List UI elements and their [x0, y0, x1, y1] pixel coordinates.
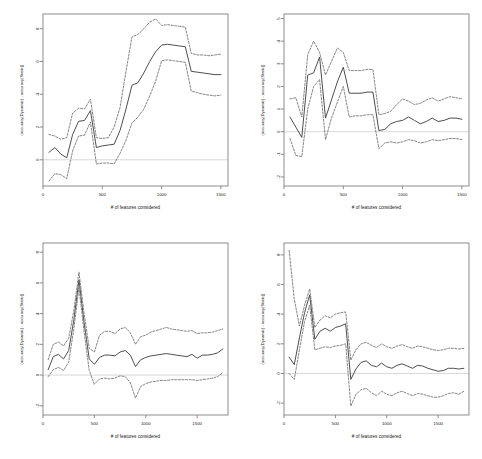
y-axis-title: (accuracy(Dynamic) - accuracy(Static)) — [260, 293, 265, 364]
y-tick-label: 5 — [276, 17, 281, 20]
series-line-mean — [48, 280, 223, 370]
x-tick-label: 1000 — [141, 421, 151, 426]
x-tick-label: 500 — [99, 192, 107, 197]
plot-box — [284, 14, 469, 186]
x-tick-label: 1000 — [157, 192, 167, 197]
y-tick-label: 6 — [276, 283, 281, 286]
y-tick-label: 2 — [35, 343, 40, 346]
y-tick-label: 0 — [35, 158, 40, 161]
y-tick-label: 4 — [35, 312, 40, 315]
series-line-lower — [289, 305, 464, 406]
series-line-upper — [290, 41, 462, 117]
x-tick-label: 1500 — [457, 192, 467, 197]
y-tick-label: 2 — [35, 125, 40, 128]
x-axis-title: # of features considered — [111, 434, 161, 439]
chart-svg-bottom-left: 050010001500-202468# of features conside… — [0, 229, 241, 458]
x-tick-label: 500 — [340, 192, 348, 197]
x-tick-label: 1500 — [192, 421, 202, 426]
y-tick-label: 0 — [276, 372, 281, 375]
chart-svg-top-left: 05001000150002468# of features considere… — [0, 0, 241, 229]
y-tick-label: 4 — [276, 39, 281, 42]
plot-panel-bottom-right: 050010001500-202468# of features conside… — [241, 229, 482, 458]
y-tick-label: 4 — [276, 312, 281, 315]
plot-panel-top-left: 05001000150002468# of features considere… — [0, 0, 241, 229]
x-axis-title: # of features considered — [352, 434, 402, 439]
x-tick-label: 1000 — [382, 421, 392, 426]
y-tick-label: 6 — [35, 281, 40, 284]
y-axis-title: (accuracy(Dynamic) - accuracy(Static)) — [19, 64, 24, 135]
x-axis-title: # of features considered — [352, 205, 402, 210]
series-line-upper — [49, 19, 221, 139]
y-tick-label: -2 — [35, 403, 40, 407]
y-tick-label: 0 — [276, 130, 281, 133]
figure-container: 05001000150002468# of features considere… — [0, 0, 482, 459]
y-tick-label: 2 — [276, 85, 281, 88]
series-line-upper — [289, 250, 464, 360]
y-tick-label: 4 — [35, 92, 40, 95]
x-axis-title: # of features considered — [111, 205, 161, 210]
plot-panel-bottom-left: 050010001500-202468# of features conside… — [0, 229, 241, 458]
y-tick-label: 0 — [35, 373, 40, 376]
x-tick-label: 0 — [42, 421, 45, 426]
x-tick-label: 500 — [332, 421, 340, 426]
y-tick-label: 8 — [35, 250, 40, 253]
plot-panel-top-right: 050010001500-2-1012345# of features cons… — [241, 0, 482, 229]
y-tick-label: 6 — [35, 60, 40, 63]
y-tick-label: 8 — [35, 27, 40, 30]
series-line-mean — [289, 295, 464, 380]
y-tick-label: 1 — [276, 107, 281, 110]
x-tick-label: 0 — [283, 421, 286, 426]
series-line-lower — [49, 60, 221, 181]
x-tick-label: 0 — [283, 192, 286, 197]
plot-box — [284, 243, 469, 415]
series-line-mean — [290, 57, 462, 137]
series-line-mean — [49, 44, 221, 158]
x-tick-label: 1500 — [216, 192, 226, 197]
x-tick-label: 1000 — [398, 192, 408, 197]
y-tick-label: 8 — [276, 253, 281, 256]
y-tick-label: -1 — [276, 152, 281, 156]
y-tick-label: -2 — [276, 401, 281, 405]
x-tick-label: 1500 — [433, 421, 443, 426]
x-tick-label: 500 — [91, 421, 99, 426]
y-tick-label: 3 — [276, 62, 281, 65]
y-axis-title: (accuracy(Dynamic) - accuracy(Static)) — [19, 293, 24, 364]
chart-svg-top-right: 050010001500-2-1012345# of features cons… — [241, 0, 482, 229]
y-tick-label: -2 — [276, 174, 281, 178]
y-axis-title: (accuracy(Dynamic) - accuracy(Static)) — [260, 64, 265, 135]
y-tick-label: 2 — [276, 342, 281, 345]
chart-svg-bottom-right: 050010001500-202468# of features conside… — [241, 229, 482, 458]
x-tick-label: 0 — [42, 192, 45, 197]
